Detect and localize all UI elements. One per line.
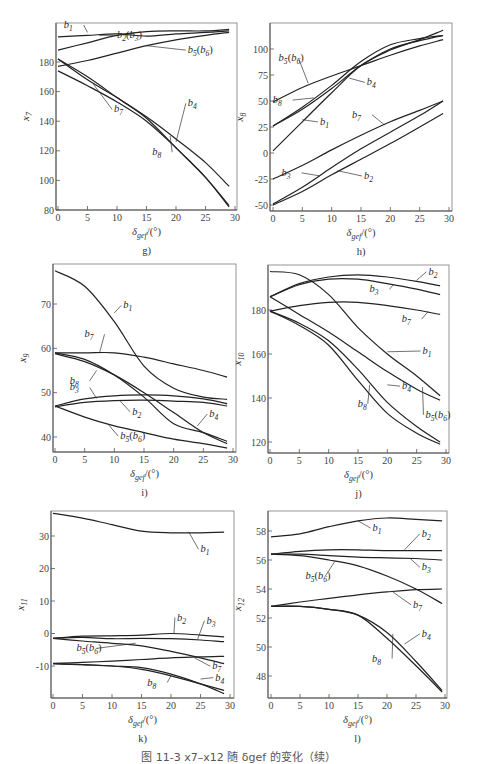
x-tick-label: 5	[80, 700, 85, 711]
x-tick-label: 15	[353, 700, 363, 711]
series-line-b8	[58, 59, 229, 206]
series-label: b1	[201, 543, 210, 557]
x-tick-label: 30	[441, 455, 451, 466]
x-tick-label: 5	[297, 455, 302, 466]
y-tick-label: 56	[256, 555, 266, 566]
series-line-b1	[55, 271, 227, 400]
y-tick-label: 180	[251, 305, 266, 316]
label-leader-line	[417, 272, 427, 281]
svg-text:b2(b3): b2(b3)	[117, 29, 143, 43]
series-line-b5-b6-	[273, 40, 443, 102]
y-tick-label: 120	[251, 437, 266, 448]
panel-label: l)	[354, 733, 361, 745]
y-tick-label: 48	[256, 671, 266, 682]
series-label: b5(b6)	[120, 430, 146, 444]
label-leader-line	[423, 387, 424, 415]
panel-label: i)	[141, 487, 148, 499]
x-tick-label: 0	[56, 212, 61, 223]
svg-text:b8: b8	[147, 677, 156, 691]
x-tick-label: 30	[228, 454, 238, 465]
label-leader-line	[387, 351, 420, 352]
label-leader-line	[114, 305, 121, 312]
x-tick-label: 20	[382, 455, 392, 466]
series-line-b1	[53, 513, 224, 533]
series-label: b3	[206, 615, 215, 629]
series-label: b1	[423, 345, 432, 359]
x-tick-label: 25	[198, 454, 208, 465]
series-label: b1	[373, 522, 382, 536]
svg-text:b4: b4	[215, 672, 224, 686]
svg-text:δgef/(°): δgef/(°)	[347, 227, 376, 241]
series-label: b1	[320, 116, 329, 130]
svg-text:b7: b7	[85, 328, 95, 342]
x-tick-label: 5	[300, 213, 305, 224]
series-line-b4	[271, 606, 442, 690]
svg-text:b7: b7	[402, 313, 412, 327]
svg-text:b8: b8	[372, 653, 381, 667]
x-tick-label: 0	[51, 700, 56, 711]
svg-text:x10: x10	[231, 353, 246, 367]
svg-text:δgef/(°): δgef/(°)	[344, 469, 373, 483]
series-label: b8	[152, 146, 161, 160]
x-tick-label: 15	[139, 454, 149, 465]
svg-text:x12: x12	[231, 598, 246, 612]
svg-text:b7: b7	[352, 109, 362, 123]
y-tick-label: -10	[36, 661, 49, 672]
y-tick-label: 50	[258, 96, 268, 107]
y-axis-label: x8	[233, 113, 248, 123]
series-label: b7	[413, 599, 423, 613]
y-tick-label: 140	[251, 393, 266, 404]
y-tick-label: 58	[256, 526, 266, 537]
label-leader-line	[387, 385, 400, 386]
x-tick-label: 10	[327, 213, 337, 224]
label-leader-line	[372, 115, 385, 125]
x-tick-label: 20	[382, 700, 392, 711]
x-tick-label: 0	[53, 454, 58, 465]
svg-text:b8: b8	[358, 398, 367, 412]
svg-text:δgef/(°): δgef/(°)	[128, 714, 157, 728]
y-tick-label: 60	[41, 343, 51, 354]
label-leader-line	[358, 521, 371, 528]
panel-label: j)	[354, 488, 362, 500]
x-axis-label: δgef/(°)	[344, 469, 373, 483]
series-line-b7	[58, 71, 229, 207]
y-tick-label: 54	[256, 584, 266, 595]
y-tick-label: 160	[251, 349, 266, 360]
svg-text:b4: b4	[209, 408, 218, 422]
x-tick-label: 15	[356, 213, 366, 224]
y-tick-label: 0	[263, 148, 268, 159]
svg-text:b5(b6): b5(b6)	[76, 642, 102, 656]
svg-text:b5(b6): b5(b6)	[305, 570, 331, 584]
x-tick-label: 25	[415, 213, 425, 224]
y-tick-label: 50	[41, 387, 51, 398]
chart-panel-i: 05101520253040506070δgef/(°)x9i)b1b7b8b3…	[16, 264, 238, 499]
y-tick-label: 40	[41, 432, 51, 443]
x-axis-label: δgef/(°)	[130, 468, 159, 482]
series-label: b4	[422, 628, 431, 642]
series-label: b3	[422, 561, 431, 575]
series-line-b2	[273, 114, 443, 206]
label-leader-line	[201, 678, 214, 679]
y-tick-label: -50	[255, 200, 268, 211]
y-tick-label: 50	[256, 642, 266, 653]
series-label: b2	[422, 528, 431, 542]
panel-label: k)	[138, 733, 147, 745]
series-line-b7	[55, 352, 227, 377]
figure-caption: 图 11-3 x7–x12 随 δgef 的变化（续）	[0, 748, 477, 764]
label-leader-line	[302, 120, 318, 122]
series-label: b3	[369, 283, 378, 297]
series-label: b5(b6)	[188, 44, 214, 58]
svg-text:x9: x9	[16, 354, 31, 364]
svg-text:b1: b1	[64, 19, 73, 33]
series-line-b5-b6-	[271, 554, 442, 603]
y-axis-label: x10	[231, 353, 246, 367]
y-tick-label: 120	[39, 145, 54, 156]
series-label: b4	[209, 408, 218, 422]
chart-panel-l: 051015202530485052545658δgef/(°)x12l)b1b…	[231, 511, 450, 745]
chart-panel-j: 051015202530120140160180δgef/(°)x10j)b2b…	[231, 265, 451, 500]
svg-text:b1: b1	[373, 522, 382, 536]
svg-text:b5(b6): b5(b6)	[425, 409, 451, 423]
series-label: b8	[358, 398, 367, 412]
x-tick-label: 5	[85, 212, 90, 223]
series-label: b8	[273, 94, 282, 108]
